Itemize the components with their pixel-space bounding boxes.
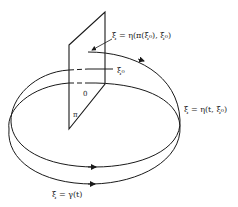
initial-point-label: ξ₀ bbox=[117, 66, 125, 75]
trajectory-label: ξ = η(t, ξ₀) bbox=[184, 105, 227, 114]
origin-label: 0 bbox=[83, 90, 87, 98]
return-point-label: ξ = η(π(ξ₀), ξ₀) bbox=[112, 31, 171, 40]
poincare-diagram: ξ = η(π(ξ₀), ξ₀) ξ₀ 0 π ξ = η(t, ξ₀) ξ =… bbox=[0, 0, 238, 207]
section-label: π bbox=[73, 111, 78, 119]
periodic-orbit-label: ξ = γ(t) bbox=[52, 190, 82, 199]
